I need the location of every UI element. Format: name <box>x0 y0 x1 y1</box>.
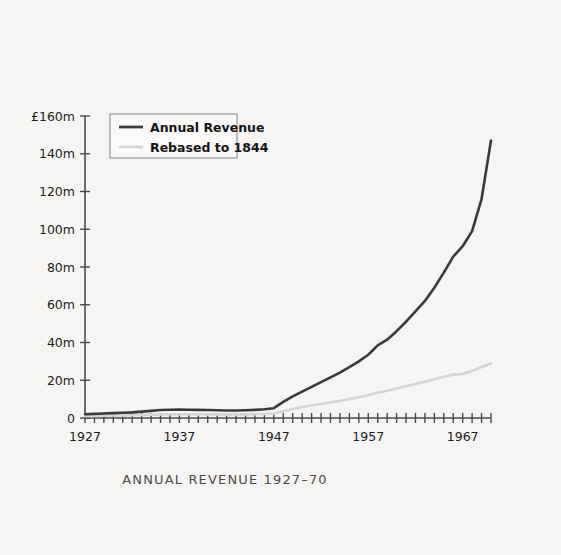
x-axis-tick-label: 1937 <box>164 429 196 444</box>
legend-label-annual-revenue: Annual Revenue <box>150 120 264 135</box>
y-axis-tick-label: £160m <box>31 109 75 124</box>
x-axis-tick-label: 1957 <box>352 429 384 444</box>
y-axis-tick-label: 20m <box>47 373 75 388</box>
x-axis-tick-label: 1927 <box>69 429 101 444</box>
revenue-chart-figure: 020m40m60m80m100m120m140m£160m 192719371… <box>0 0 561 555</box>
y-axis-tick-label: 40m <box>47 335 75 350</box>
y-axis-tick-label: 60m <box>47 297 75 312</box>
y-axis-tick-label: 120m <box>39 184 75 199</box>
legend-label-rebased-to-1844: Rebased to 1844 <box>150 140 269 155</box>
chart-caption: ANNUAL REVENUE 1927–70 <box>122 472 328 487</box>
chart-svg: 020m40m60m80m100m120m140m£160m 192719371… <box>0 0 561 555</box>
y-axis-tick-label: 100m <box>39 222 75 237</box>
y-axis-tick-label: 0 <box>67 411 75 426</box>
y-axis-tick-label: 80m <box>47 260 75 275</box>
x-axis-tick-label: 1947 <box>258 429 290 444</box>
y-axis-tick-label: 140m <box>39 146 75 161</box>
x-axis-tick-label: 1967 <box>447 429 479 444</box>
